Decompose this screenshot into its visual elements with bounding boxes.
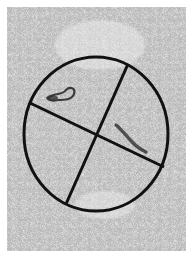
- micrograph: [7, 7, 186, 251]
- micrograph-canvas: [7, 7, 186, 251]
